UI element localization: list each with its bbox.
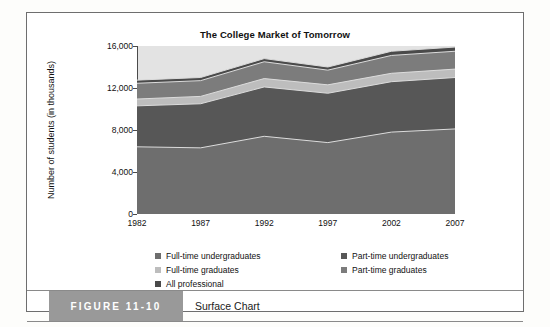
chart-title: The College Market of Tomorrow <box>27 29 523 40</box>
y-tick-label: 4,000 <box>112 167 133 177</box>
x-tick-label: 1992 <box>255 218 274 228</box>
legend-column-right: Part-time undergraduatesPart-time gradua… <box>341 249 448 277</box>
legend-item: Full-time undergraduates <box>155 249 261 262</box>
figure-caption: Surface Chart <box>195 291 260 321</box>
x-tick-label: 1997 <box>318 218 337 228</box>
y-axis-tick-labels: 04,0008,00012,00016,000 <box>89 46 133 214</box>
legend-label: All professional <box>166 279 224 289</box>
legend-item: Full-time graduates <box>155 263 261 276</box>
figure-page: The College Market of Tomorrow Number of… <box>0 0 550 327</box>
y-tick-mark <box>133 214 137 215</box>
area-chart-svg <box>137 46 455 214</box>
y-axis-title: Number of students (in thousands) <box>46 50 56 210</box>
x-tick-label: 2002 <box>382 218 401 228</box>
x-tick-label: 1982 <box>128 218 147 228</box>
chart-card: The College Market of Tomorrow Number of… <box>27 13 523 278</box>
legend-item: Part-time graduates <box>341 263 448 276</box>
y-tick-label: 16,000 <box>107 41 133 51</box>
legend-swatch-icon <box>341 253 347 259</box>
x-tick-label: 1987 <box>191 218 210 228</box>
figure-number-label: FIGURE 11-10 <box>71 301 162 312</box>
legend-swatch-icon <box>155 267 161 273</box>
legend-column-left: Full-time undergraduatesFull-time gradua… <box>155 249 261 291</box>
y-tick-label: 12,000 <box>107 83 133 93</box>
legend-swatch-icon <box>341 267 347 273</box>
legend-label: Full-time graduates <box>166 265 239 275</box>
y-tick-label: 8,000 <box>112 125 133 135</box>
legend-label: Full-time undergraduates <box>166 251 261 261</box>
figure-number-badge: FIGURE 11-10 <box>49 291 183 321</box>
legend-item: All professional <box>155 277 261 290</box>
legend-swatch-icon <box>155 281 161 287</box>
plot-area <box>137 46 455 214</box>
legend-swatch-icon <box>155 253 161 259</box>
x-tick-label: 2007 <box>446 218 465 228</box>
x-axis-tick-labels: 198219871992199720022007 <box>137 218 455 232</box>
chart-legend: Full-time undergraduatesFull-time gradua… <box>155 249 505 291</box>
caption-divider-bottom <box>27 321 523 322</box>
legend-label: Part-time undergraduates <box>352 251 448 261</box>
legend-item: Part-time undergraduates <box>341 249 448 262</box>
legend-label: Part-time graduates <box>352 265 427 275</box>
figure-frame: The College Market of Tomorrow Number of… <box>26 12 524 312</box>
